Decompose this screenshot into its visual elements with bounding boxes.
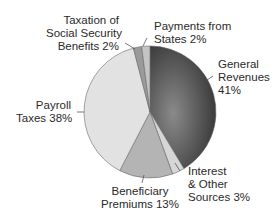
label-line: Benefits 2% [46,40,119,53]
label-line: General [218,58,270,71]
leader-taxation [125,43,135,49]
label-line: States 2% [154,33,231,46]
label-line: Payments from [154,20,231,33]
label-payments-from-states: Payments from States 2% [154,20,231,46]
label-line: Sources 3% [188,191,250,204]
label-line: & Other [188,178,250,191]
label-line: Revenues [218,71,270,84]
label-line: 41% [218,84,270,97]
leader-payments [143,38,147,46]
label-line: Interest [188,165,250,178]
pie-slices [84,46,216,178]
label-interest-other-sources: Interest & Other Sources 3% [188,165,250,204]
label-line: Payroll [16,99,71,112]
leader-general-revenues [207,76,213,80]
label-line: Social Security [46,27,119,40]
label-taxation-social-security: Taxation of Social Security Benefits 2% [46,14,119,53]
label-line: Beneficiary [100,185,180,198]
label-beneficiary-premiums: Beneficiary Premiums 13% [100,185,180,211]
label-line: Taxes 38% [16,112,71,125]
label-general-revenues: General Revenues 41% [218,58,270,97]
label-line: Premiums 13% [100,198,180,211]
label-payroll-taxes: Payroll Taxes 38% [16,99,71,125]
label-line: Taxation of [46,14,119,27]
